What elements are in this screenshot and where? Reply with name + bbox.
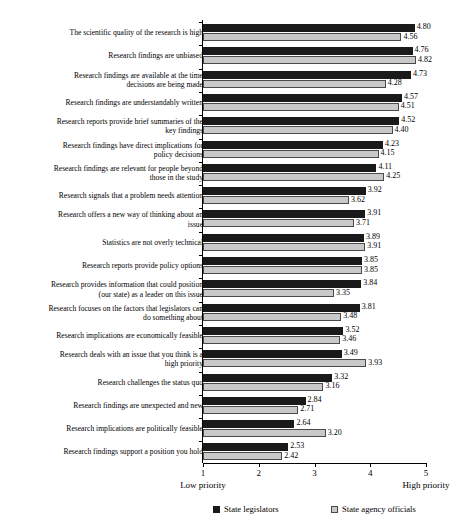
bar-group: 3.843.35 [203, 277, 457, 301]
category-label: Research deals with an issue that you th… [7, 350, 203, 368]
bar-group: 2.532.42 [203, 440, 457, 464]
bar-state-agency-officials [203, 266, 362, 274]
chart-row: Research deals with an issue that you th… [0, 347, 457, 371]
bar-state-legislators [203, 117, 399, 125]
bar-group: 3.923.62 [203, 184, 457, 208]
bar-value-label: 3.85 [364, 266, 378, 274]
category-label: Research reports provide brief summaries… [7, 117, 203, 135]
chart-row: Research provides information that could… [0, 277, 457, 301]
bar-group: 3.523.46 [203, 324, 457, 348]
bar-group: 3.853.85 [203, 254, 457, 278]
value-axis-tick [370, 463, 371, 467]
bar-value-label: 4.56 [403, 33, 417, 41]
bar-value-label: 2.84 [308, 396, 322, 404]
bar-group: 3.323.16 [203, 371, 457, 395]
category-label: Research findings are relevant for peopl… [7, 164, 203, 182]
bar-state-agency-officials [203, 80, 386, 88]
bar-value-label: 4.15 [381, 149, 395, 157]
bar-group: 4.734.28 [203, 68, 457, 92]
bar-group: 2.643.20 [203, 417, 457, 441]
category-label: Research implications are economically f… [7, 331, 203, 340]
category-label: Research implications are politically fe… [7, 424, 203, 433]
category-label: Research findings support a position you… [7, 448, 203, 457]
bar-group: 4.114.25 [203, 161, 457, 185]
chart-page: The scientific quality of the research i… [0, 0, 457, 530]
bar-state-agency-officials [203, 429, 326, 437]
legend-item-state-agency-officials: State agency officials [331, 503, 416, 515]
legend-label-state-agency-officials: State agency officials [342, 503, 416, 515]
value-axis-tick-label: 4 [368, 468, 373, 478]
bar-value-label: 3.93 [368, 359, 382, 367]
bar-state-agency-officials [203, 359, 366, 367]
chart-row: Research implications are politically fe… [0, 417, 457, 441]
bar-state-legislators [203, 234, 364, 242]
chart-row: The scientific quality of the research i… [0, 21, 457, 45]
bar-value-label: 4.76 [415, 46, 429, 54]
bar-value-label: 3.52 [345, 326, 359, 334]
bar-value-label: 3.20 [328, 429, 342, 437]
category-label: Research reports provide policy options [7, 261, 203, 270]
bar-state-legislators [203, 443, 288, 451]
value-axis-tick-label: 2 [257, 468, 262, 478]
bar-state-legislators [203, 304, 360, 312]
value-axis-tick [203, 463, 204, 467]
bar-state-agency-officials [203, 289, 334, 297]
bar-value-label: 4.23 [385, 140, 399, 148]
bar-state-agency-officials [203, 173, 384, 181]
bar-state-agency-officials [203, 219, 354, 227]
category-label: Research provides information that could… [7, 280, 203, 298]
category-label: Research findings are unexpected and new [7, 401, 203, 410]
bar-state-legislators [203, 71, 411, 79]
category-label: Statistics are not overly technical [7, 238, 203, 247]
bar-value-label: 3.46 [342, 335, 356, 343]
bar-value-label: 3.48 [343, 312, 357, 320]
chart-row: Research offers a new way of thinking ab… [0, 207, 457, 231]
bar-group: 4.574.51 [203, 91, 457, 115]
bar-value-label: 4.25 [386, 172, 400, 180]
bar-value-label: 2.64 [296, 419, 310, 427]
chart-row: Research focuses on the factors that leg… [0, 301, 457, 325]
bar-group: 3.813.48 [203, 301, 457, 325]
bar-state-legislators [203, 420, 294, 428]
chart-row: Research findings are available at the t… [0, 68, 457, 92]
chart-row: Research findings support a position you… [0, 440, 457, 464]
bar-group: 4.764.82 [203, 44, 457, 68]
axis-high-priority-label: High priority [396, 480, 456, 491]
bar-state-agency-officials [203, 406, 298, 414]
bar-value-label: 2.53 [290, 442, 304, 450]
legend-swatch-icon-state-agency-officials [331, 506, 338, 513]
bar-group: 4.234.15 [203, 138, 457, 162]
chart-row: Research implications are economically f… [0, 324, 457, 348]
bar-state-agency-officials [203, 33, 401, 41]
value-axis-tick-label: 5 [424, 468, 429, 478]
bar-state-legislators [203, 350, 342, 358]
bar-state-agency-officials [203, 243, 365, 251]
horizontal-bar-chart: The scientific quality of the research i… [0, 0, 457, 530]
legend-item-state-legislators: State legislators [213, 503, 279, 515]
bar-state-legislators [203, 327, 343, 335]
bar-state-legislators [203, 374, 332, 382]
bar-group: 4.524.40 [203, 114, 457, 138]
bar-value-label: 3.81 [362, 303, 376, 311]
bar-group: 4.804.56 [203, 21, 457, 45]
chart-row: Statistics are not overly technical3.893… [0, 231, 457, 255]
axis-low-priority-label: Low priority [173, 480, 233, 491]
chart-row: Research reports provide policy options3… [0, 254, 457, 278]
category-label: Research findings are available at the t… [7, 70, 203, 88]
bar-value-label: 3.91 [367, 242, 381, 250]
value-axis-tick-label: 1 [201, 468, 206, 478]
bar-value-label: 3.89 [366, 233, 380, 241]
bar-value-label: 4.52 [401, 116, 415, 124]
bar-value-label: 4.28 [388, 79, 402, 87]
category-label: The scientific quality of the research i… [7, 28, 203, 37]
bar-state-legislators [203, 164, 376, 172]
category-label: Research findings are unbiased [7, 52, 203, 61]
value-axis-tick-label: 3 [312, 468, 317, 478]
bar-state-agency-officials [203, 313, 341, 321]
category-label: Research signals that a problem needs at… [7, 191, 203, 200]
bar-value-label: 3.92 [368, 186, 382, 194]
bar-value-label: 2.71 [300, 405, 314, 413]
chart-row: Research findings are relevant for peopl… [0, 161, 457, 185]
bar-state-agency-officials [203, 336, 340, 344]
bar-state-agency-officials [203, 103, 399, 111]
